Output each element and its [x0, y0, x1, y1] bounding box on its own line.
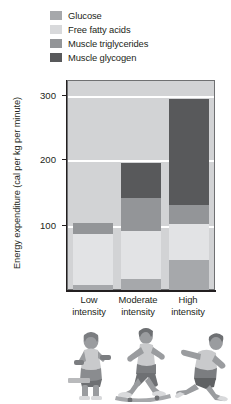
segment-moderate-muscle-triglycerides: [121, 198, 161, 231]
x-label-moderate-line1: Moderate: [119, 294, 158, 305]
x-label-high-intensity: High intensity: [157, 294, 219, 318]
segment-high-free-fatty-acids: [169, 224, 209, 259]
segment-high-muscle-triglycerides: [169, 205, 209, 224]
x-label-high-line2: intensity: [171, 306, 205, 317]
y-tickmark-300: [62, 95, 66, 96]
illustration-row: [58, 322, 228, 402]
bar-high-intensity: [169, 80, 209, 290]
x-label-moderate-line2: intensity: [121, 306, 155, 317]
legend-swatch-free-fatty-acids: [50, 25, 62, 34]
legend-item-muscle-triglycerides: Muscle triglycerides: [50, 37, 200, 50]
segment-moderate-muscle-glycogen: [121, 163, 161, 198]
legend-swatch-glucose: [50, 11, 62, 20]
chart-legend: Glucose Free fatty acids Muscle triglyce…: [50, 9, 200, 65]
seated-person-with-dumbbells-icon: [66, 330, 118, 402]
segment-low-muscle-glycogen: [73, 223, 113, 235]
bar-low-intensity: [73, 80, 113, 290]
y-axis-title: Energy expenditure (cal per kg per minut…: [12, 73, 22, 293]
skateboarder-icon: [112, 326, 174, 402]
y-tick-label-300: 300: [0, 90, 56, 101]
segment-high-muscle-glycogen: [169, 99, 209, 205]
legend-label-free-fatty-acids: Free fatty acids: [68, 25, 131, 35]
x-label-high-line1: High: [179, 294, 198, 305]
legend-label-muscle-triglycerides: Muscle triglycerides: [68, 39, 148, 49]
legend-swatch-muscle-triglycerides: [50, 39, 62, 48]
y-tickmark-100: [62, 225, 66, 226]
legend-item-muscle-glycogen: Muscle glycogen: [50, 51, 200, 64]
x-label-low-line2: intensity: [72, 306, 106, 317]
bar-moderate-intensity: [121, 80, 161, 290]
x-label-low-line1: Low: [81, 294, 98, 305]
legend-label-muscle-glycogen: Muscle glycogen: [68, 53, 136, 63]
legend-swatch-muscle-glycogen: [50, 53, 62, 62]
segment-moderate-glucose: [121, 279, 161, 291]
y-tickmark-200: [62, 159, 66, 160]
energy-expenditure-figure: Glucose Free fatty acids Muscle triglyce…: [0, 0, 231, 404]
segment-low-free-fatty-acids: [73, 234, 113, 285]
bar-group: [67, 80, 215, 290]
segment-low-glucose: [73, 285, 113, 290]
legend-label-glucose: Glucose: [68, 11, 102, 21]
segment-moderate-free-fatty-acids: [121, 231, 161, 279]
y-tick-label-100: 100: [0, 220, 56, 231]
runner-icon: [174, 330, 231, 402]
legend-item-glucose: Glucose: [50, 9, 200, 22]
y-tick-label-200: 200: [0, 154, 56, 165]
segment-high-glucose: [169, 260, 209, 291]
x-axis-line: [66, 290, 216, 292]
x-axis-labels: Low intensity Moderate intensity High in…: [60, 294, 225, 322]
legend-item-free-fatty-acids: Free fatty acids: [50, 23, 200, 36]
